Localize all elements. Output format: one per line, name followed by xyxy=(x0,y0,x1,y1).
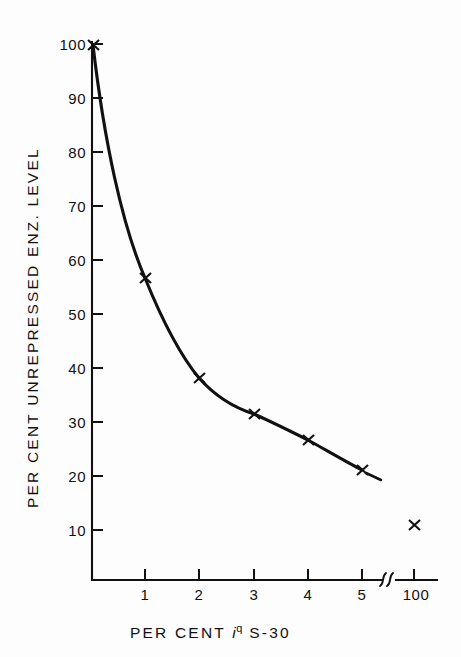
x-tick-label-5: 5 xyxy=(358,586,367,603)
y-tick-label-50: 50 xyxy=(68,306,86,323)
y-tick-marks xyxy=(92,44,103,530)
x-axis-title-superscript: q xyxy=(236,622,243,634)
chart-canvas: 100 90 80 70 60 50 40 30 20 10 1 2 3 4 5 xyxy=(0,0,461,657)
y-tick-label-90: 90 xyxy=(68,90,86,107)
x-tick-label-3: 3 xyxy=(250,586,259,603)
axis-titles: PER CENT UNREPRESSED ENZ. LEVEL PER CENT… xyxy=(24,147,291,641)
x-tick-labels: 1 2 3 4 5 100 xyxy=(141,586,430,603)
y-tick-label-10: 10 xyxy=(68,522,86,539)
y-tick-label-80: 80 xyxy=(68,144,86,161)
y-tick-label-100: 100 xyxy=(59,36,86,53)
y-tick-label-40: 40 xyxy=(68,360,86,377)
x-tick-label-100: 100 xyxy=(403,586,430,603)
x-axis-title: PER CENT iq S-30 xyxy=(130,622,291,641)
x-tick-marks xyxy=(145,569,414,580)
x-tick-label-4: 4 xyxy=(304,586,313,603)
y-axis-title: PER CENT UNREPRESSED ENZ. LEVEL xyxy=(24,147,41,508)
data-point-100 xyxy=(409,520,420,530)
y-tick-label-20: 20 xyxy=(68,468,86,485)
y-tick-labels: 100 90 80 70 60 50 40 30 20 10 xyxy=(59,36,86,539)
data-point-2 xyxy=(194,373,205,383)
data-curve-line xyxy=(93,45,362,470)
data-point-markers xyxy=(88,40,420,530)
x-axis-title-trail: S-30 xyxy=(243,624,291,641)
x-tick-label-1: 1 xyxy=(141,586,150,603)
y-tick-label-70: 70 xyxy=(68,198,86,215)
y-tick-label-30: 30 xyxy=(68,414,86,431)
x-axis-title-lead: PER CENT xyxy=(130,624,232,641)
figure-panel: 100 90 80 70 60 50 40 30 20 10 1 2 3 4 5 xyxy=(0,0,461,657)
y-tick-label-60: 60 xyxy=(68,252,86,269)
data-series-group xyxy=(93,45,381,480)
axes-group xyxy=(92,42,437,580)
x-tick-label-2: 2 xyxy=(195,586,204,603)
